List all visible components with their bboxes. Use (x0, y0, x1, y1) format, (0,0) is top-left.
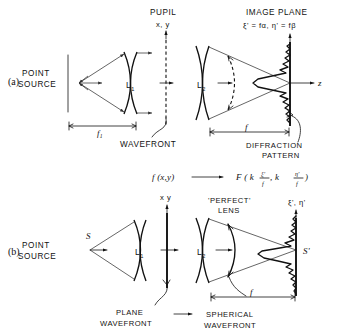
optics-figure: (a) POINT SOURCE L1 PUPIL x, y WAVEFRONT… (0, 0, 338, 336)
dim-f-label-a: f (245, 122, 249, 132)
equation-comma: , k (270, 172, 280, 182)
spherical-leader-b (229, 277, 246, 296)
ray-a-lower (79, 83, 124, 112)
panel-b: (b) POINT SOURCE S L1 x y PLANE WAVEFRON… (8, 193, 311, 330)
ray-a-back-lower (79, 83, 88, 90)
source-label-b-line1: POINT (22, 241, 50, 250)
diffraction-pattern-b (258, 216, 296, 294)
z-axis-label: z (317, 78, 322, 88)
lens-l2-b-back (203, 218, 210, 283)
ray-a2-lower (209, 83, 290, 119)
image-plane-coords-a: ξ' = fα, η' = fβ (243, 21, 296, 30)
panel-a: (a) POINT SOURCE L1 PUPIL x, y WAVEFRONT… (8, 8, 322, 160)
plane-wavefront-label-line2: WAVEFRONT (100, 319, 152, 328)
equation-num2: η' (295, 170, 300, 177)
equation-den1: f (262, 180, 265, 187)
pupil-title: PUPIL (150, 8, 176, 17)
ray-b-upper (90, 222, 134, 250)
image-point-label-b: S' (303, 246, 311, 256)
lens-l1-a-label: L1 (126, 80, 135, 92)
diffraction-leader-a (292, 116, 300, 142)
source-label-a-line2: SOURCE (18, 80, 56, 89)
wavefront-leader-a (152, 118, 166, 137)
source-label-a-line1: POINT (22, 69, 50, 78)
ray-b-lower (90, 250, 134, 279)
transform-equation: f (x,y) F ( k ξ' f , k η' f ) (152, 170, 308, 187)
lens-l2-b-label: L2 (197, 247, 206, 259)
ray-b2-lower (209, 250, 296, 282)
equation-output-close: ) (304, 172, 308, 182)
perfect-lens-label-line1: 'PERFECT' (208, 196, 251, 205)
spherical-wavefront-b (228, 224, 235, 277)
plane-coords-b: x y (160, 193, 171, 202)
diffraction-label-a-line2: PATTERN (262, 151, 300, 160)
pupil-coords: x, y (156, 20, 170, 29)
dim-f1-label: f1 (97, 128, 103, 139)
perfect-lens-label-line2: LENS (218, 206, 240, 215)
dim-f-label-b: f (250, 287, 254, 297)
figure-canvas: (a) POINT SOURCE L1 PUPIL x, y WAVEFRONT… (0, 0, 338, 336)
plane-wavefront-leader-b (155, 284, 167, 305)
image-plane-title-a: IMAGE PLANE (246, 8, 308, 17)
image-plane-coords-b: ξ', η' (288, 198, 306, 207)
wavefront-label-a: WAVEFRONT (120, 140, 176, 149)
plane-wavefront-label-line1: PLANE (116, 308, 143, 317)
spherical-wavefront-label-line2: WAVEFRONT (204, 321, 256, 330)
ray-b2-upper (209, 219, 296, 250)
equation-output-open: F ( k (235, 172, 255, 182)
lens-l1-a-back (131, 52, 138, 114)
source-label-b-line2: SOURCE (18, 252, 56, 261)
source-point-label-b: S (86, 231, 91, 241)
equation-input: f (x,y) (152, 172, 174, 182)
lens-l2-a-label: L2 (197, 80, 206, 92)
equation-num1: ξ' (261, 170, 266, 178)
spherical-wavefront-label-line1: SPHERICAL (206, 310, 254, 319)
lens-l2-a-back (203, 46, 210, 120)
lens-l1-b-label: L1 (135, 247, 144, 259)
ray-a2-upper (209, 47, 290, 83)
diffraction-pattern-a (253, 44, 290, 123)
ray-a-upper (79, 54, 124, 83)
diffraction-label-a-line1: DIFFRACTION (246, 141, 303, 150)
ray-a-back-upper (79, 76, 88, 83)
equation-den2: f (296, 180, 299, 187)
